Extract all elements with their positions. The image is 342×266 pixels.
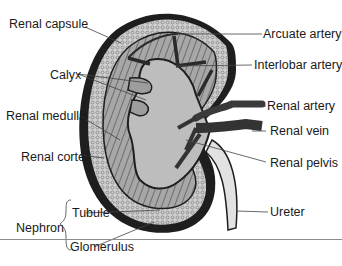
renal-vein-shape	[196, 124, 262, 128]
label-ureter: Ureter	[270, 205, 305, 219]
label-arcuate-artery: Arcuate artery	[263, 27, 342, 41]
bottom-divider	[0, 239, 342, 240]
label-renal-pelvis: Renal pelvis	[270, 156, 338, 170]
label-renal-medulla: Renal medulla	[6, 109, 86, 123]
label-glomerulus: Glomerulus	[70, 240, 134, 254]
kidney-diagram: Renal capsule Calyx Renal medulla Renal …	[0, 0, 342, 266]
label-renal-artery: Renal artery	[267, 99, 335, 113]
label-renal-cortex: Renal cortex	[21, 150, 91, 164]
label-nephron: Nephron	[16, 221, 64, 235]
label-tubule: Tubule	[72, 206, 110, 220]
label-interlobar-artery: Interlobar artery	[254, 58, 342, 72]
label-renal-capsule: Renal capsule	[9, 17, 88, 31]
label-calyx: Calyx	[50, 68, 81, 82]
label-renal-vein: Renal vein	[270, 124, 329, 138]
